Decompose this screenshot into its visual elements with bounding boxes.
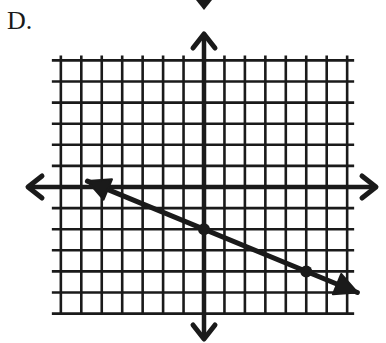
plotted-line [87, 179, 357, 294]
data-point [198, 223, 210, 235]
data-point [300, 265, 312, 277]
clipped-arrow-icon [196, 0, 212, 10]
function-line [87, 181, 357, 292]
coordinate-graph [0, 0, 386, 343]
line-right-arrow-icon [333, 274, 358, 294]
line-left-arrow-icon [87, 179, 112, 199]
